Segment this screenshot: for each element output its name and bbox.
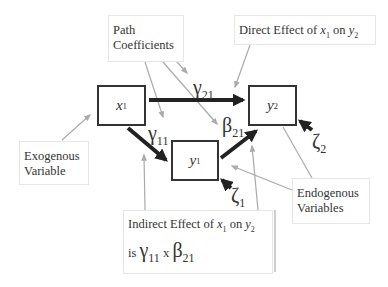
label-direct-effect: Direct Effect of x1 on y2 xyxy=(234,15,376,45)
coef-beta21: β21 xyxy=(222,114,244,141)
path-diagram: x1 y2 y1 γ21 γ11 β21 ζ2 ζ1 Path Coeffici… xyxy=(0,0,388,287)
label-exogenous-variable: Exogenous Variable xyxy=(19,141,89,185)
coef-gamma11: γ11 xyxy=(148,122,168,149)
node-y2-subscript: 2 xyxy=(274,101,279,111)
label-indirect-effect: Indirect Effect of x1 on y2 is γ11 x β21 xyxy=(123,210,273,274)
coef-zeta2: ζ2 xyxy=(312,130,326,157)
node-x1: x1 xyxy=(97,85,146,126)
node-y2-label: y xyxy=(267,97,274,114)
node-x1-label: x xyxy=(116,97,123,114)
coef-zeta1: ζ1 xyxy=(231,184,245,211)
node-y1: y1 xyxy=(171,140,219,181)
coef-gamma21: γ21 xyxy=(193,76,214,103)
node-y1-label: y xyxy=(189,152,196,169)
node-y1-subscript: 1 xyxy=(196,156,201,166)
label-endogenous-variables: Endogenous Variables xyxy=(292,178,370,224)
node-x1-subscript: 1 xyxy=(123,101,128,111)
label-path-coefficients: Path Coefficients xyxy=(108,15,184,62)
node-y2: y2 xyxy=(248,85,297,126)
